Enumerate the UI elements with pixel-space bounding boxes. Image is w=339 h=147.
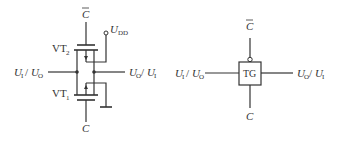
svg-text:/: / <box>309 67 313 79</box>
svg-text:C: C <box>246 20 254 32</box>
svg-text:2: 2 <box>66 49 70 57</box>
svg-text:/: / <box>186 67 190 79</box>
svg-text:/: / <box>141 66 145 78</box>
vt2-body-arrow-icon <box>84 56 88 60</box>
input-label: U I / U O <box>14 66 43 80</box>
udd-terminal-icon <box>104 31 108 35</box>
svg-text:VT: VT <box>52 87 67 99</box>
control-top-label: C <box>82 8 90 20</box>
inversion-bubble-icon <box>248 57 252 61</box>
svg-text:/: / <box>25 66 29 78</box>
tg-control-bottom-label: C <box>246 110 254 122</box>
svg-text:O: O <box>199 73 204 81</box>
svg-text:I: I <box>322 73 325 81</box>
output-label: U O / U I <box>129 66 157 80</box>
udd-label: U DD <box>110 23 128 37</box>
svg-text:DD: DD <box>118 29 128 37</box>
svg-text:1: 1 <box>66 94 70 102</box>
svg-text:I: I <box>21 72 24 80</box>
tg-input-label: U I / U O <box>175 67 204 81</box>
control-bottom-label: C <box>82 122 90 134</box>
tg-control-top-label: C <box>246 20 254 32</box>
svg-text:I: I <box>154 72 157 80</box>
svg-text:I: I <box>182 73 185 81</box>
vt2-label: VT 2 <box>52 42 70 57</box>
svg-text:VT: VT <box>52 42 67 54</box>
wire-udd <box>86 35 106 62</box>
svg-text:O: O <box>38 72 43 80</box>
transmission-gate-diagram: C VT 2 U DD U I / U <box>0 0 339 147</box>
vt1-label: VT 1 <box>52 87 70 102</box>
vt1-body-arrow-icon <box>84 85 88 89</box>
tg-box-label: TG <box>243 68 256 79</box>
cmos-transmission-gate-circuit: C VT 2 U DD U I / U <box>14 8 157 134</box>
svg-text:C: C <box>82 8 90 20</box>
diagram-canvas: C VT 2 U DD U I / U <box>0 0 339 147</box>
tg-output-label: U O / U I <box>297 67 325 81</box>
tg-symbol: C TG C U I / U O U O / U I <box>175 20 325 122</box>
